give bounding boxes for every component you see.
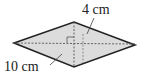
short-diagonal-label: 4 cm	[82, 3, 110, 17]
long-diagonal-label: 10 cm	[4, 60, 39, 74]
